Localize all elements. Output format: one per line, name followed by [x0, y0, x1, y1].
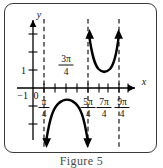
y-axis-label: y	[36, 9, 42, 20]
x-tick-label-5pi-over-4-denominator: 4	[86, 109, 91, 119]
x-tick-label-7pi-over-4-numerator: 7π	[99, 97, 109, 107]
figure-container: y x 1 −1 0 π 4 3π 4 5π 4 7π 4	[0, 0, 163, 168]
x-tick-label-pi-over-4-numerator: π	[42, 97, 47, 107]
figure-caption: Figure 5	[0, 154, 163, 168]
origin-label: 0	[34, 90, 39, 101]
trig-graph-plot: y x 1 −1 0 π 4 3π 4 5π 4 7π 4	[0, 0, 163, 168]
x-tick-label-9pi-over-4-denominator: 4	[120, 109, 125, 119]
x-tick-label-9pi-over-4-numerator: 9π	[117, 97, 127, 107]
x-tick-label-pi-over-4-denominator: 4	[42, 109, 47, 119]
arrowhead-down-right	[83, 138, 92, 148]
y-tick-label-negative-1: −1	[17, 90, 28, 101]
x-tick-label-3pi-over-4: 3π 4	[59, 54, 74, 77]
curve-path-downward	[47, 100, 88, 139]
x-tick-label-3pi-over-4-denominator: 4	[64, 67, 69, 77]
x-axis-arrowhead	[128, 85, 135, 92]
arrowhead-up-left	[85, 29, 94, 39]
curve-path-upward	[90, 38, 119, 72]
x-tick-label-3pi-over-4-numerator: 3π	[61, 54, 71, 64]
x-tick-label-9pi-over-4: 9π 4	[115, 97, 130, 120]
curve-branch-upward	[85, 29, 123, 72]
y-tick-label-1: 1	[21, 65, 26, 76]
x-tick-label-7pi-over-4-denominator: 4	[102, 109, 107, 119]
x-tick-label-7pi-over-4: 7π 4	[97, 97, 112, 120]
curve-branch-downward	[42, 100, 92, 148]
x-tick-label-pi-over-4: π 4	[39, 97, 50, 120]
y-axis-arrowhead	[30, 20, 37, 27]
x-axis-label: x	[141, 76, 147, 87]
arrowhead-up-right	[114, 29, 123, 39]
x-tick-label-5pi-over-4-numerator: 5π	[83, 97, 93, 107]
